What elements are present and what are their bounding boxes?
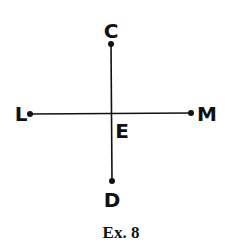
label-l: L [15,102,28,126]
label-e: E [115,119,129,143]
point-m [188,110,194,116]
label-d: D [104,188,121,212]
point-l [27,111,33,117]
geometry-diagram: C D L M E Ex. 8 [0,0,240,246]
label-c: C [104,19,119,43]
label-m: M [197,102,217,126]
caption: Ex. 8 [103,223,140,242]
segment-cd [111,44,112,181]
point-d [109,178,115,184]
segment-lm [30,113,191,114]
